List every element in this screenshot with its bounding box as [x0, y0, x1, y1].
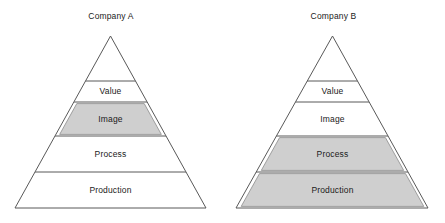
band-label-production-b: Production [311, 185, 353, 195]
band-label-value-b: Value [322, 86, 344, 96]
pyramid-figure-company-a: Company A [0, 0, 222, 223]
band-label-process-b: Process [317, 149, 349, 159]
pyramid-svg-company-b: Value Image Process Production [222, 0, 445, 223]
band-label-value-a: Value [100, 86, 122, 96]
diagram-canvas: Company A [0, 0, 445, 223]
pyramid-svg-company-a: Value Image Process Production [0, 0, 222, 223]
band-label-process-a: Process [95, 149, 127, 159]
band-label-image-a: Image [98, 114, 122, 124]
band-label-image-b: Image [320, 114, 344, 124]
band-label-production-a: Production [89, 185, 131, 195]
pyramid-figure-company-b: Company B Value Image [222, 0, 445, 223]
